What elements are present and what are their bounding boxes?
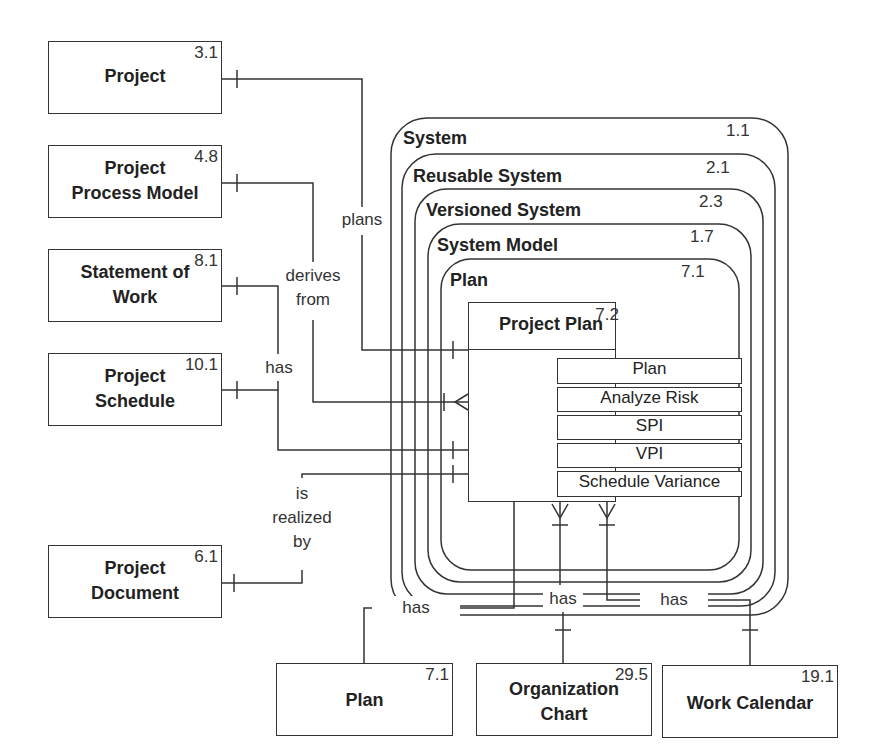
rel-has-schedule-label: has [260,356,298,380]
operation-plan[interactable]: Plan [557,358,742,384]
entity-num: 19.1 [801,667,834,687]
entity-name: Project [49,64,221,89]
entity-name-line-1: Organization [477,677,651,702]
rel-is-line: is [267,482,337,506]
reusable-system-num: 2.1 [706,158,730,178]
rel-is-realized-by-label: is realized by [267,482,337,554]
rel-by-line: by [267,530,337,554]
rel-has-plan-label: has [372,596,460,620]
operation-schedule-variance[interactable]: Schedule Variance [557,471,742,497]
plan-type-num: 7.1 [681,262,705,282]
reusable-system-label: Reusable System [413,166,562,187]
system-label: System [403,128,467,149]
project-plan-num: 7.2 [595,305,619,325]
entity-name: Work Calendar [663,691,837,716]
project-plan-title: Project Plan [499,314,603,335]
rel-from-line: from [279,288,347,312]
operation-spi[interactable]: SPI [557,415,742,440]
versioned-system-label: Versioned System [426,200,581,221]
rel-has-work-calendar-label: has [640,588,708,612]
entity-organization-chart[interactable]: 29.5 Organization Chart [476,663,652,736]
rel-derives-line: derives [279,264,347,288]
rel-plans-label: plans [337,208,387,232]
entity-name-line-1: Statement of [49,260,221,285]
rel-realized-line: realized [267,506,337,530]
operation-vpi[interactable]: VPI [557,443,742,468]
project-plan-divider [469,349,615,350]
entity-num: 7.1 [425,665,449,685]
entity-name-line-2: Work [49,285,221,310]
entity-name-line-1: Project [49,156,221,181]
entity-project[interactable]: 3.1 Project [48,41,222,114]
rel-has-org-chart-label: has [543,587,583,611]
entity-plan[interactable]: 7.1 Plan [276,663,453,736]
system-model-num: 1.7 [690,227,714,247]
entity-project-schedule[interactable]: 10.1 Project Schedule [48,353,222,426]
entity-project-process-model[interactable]: 4.8 Project Process Model [48,145,222,218]
versioned-system-num: 2.3 [699,192,723,212]
rel-derives-from-label: derives from [279,264,347,312]
entity-name-line-2: Chart [477,702,651,727]
entity-num: 3.1 [194,43,218,63]
entity-name-line-1: Project [49,556,221,581]
entity-name-line-2: Document [49,581,221,606]
entity-statement-of-work[interactable]: 8.1 Statement of Work [48,249,222,322]
system-num: 1.1 [726,121,750,141]
entity-name: Plan [277,688,452,713]
entity-name-line-2: Process Model [49,181,221,206]
system-model-label: System Model [437,235,558,256]
operation-analyze-risk[interactable]: Analyze Risk [557,387,742,412]
entity-work-calendar[interactable]: 19.1 Work Calendar [662,665,838,738]
plan-type-label: Plan [450,270,488,291]
entity-project-document[interactable]: 6.1 Project Document [48,545,222,618]
entity-name-line-2: Schedule [49,389,221,414]
entity-name-line-1: Project [49,364,221,389]
